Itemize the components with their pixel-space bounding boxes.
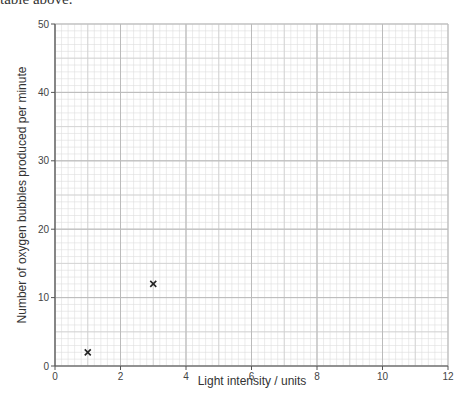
y-tick-label: 40 [38,87,50,98]
tick-labels: 02468101201020304050 [38,19,454,383]
x-tick-label: 10 [377,371,389,382]
x-tick-label: 8 [314,371,320,382]
y-tick-label: 50 [38,19,50,30]
x-tick-label: 4 [183,371,189,382]
x-tick-label: 12 [442,371,454,382]
y-tick-label: 0 [43,361,49,372]
y-tick-label: 10 [38,292,50,303]
x-tick-label: 2 [118,371,124,382]
y-axis-label: Number of oxygen bubbles produced per mi… [15,66,29,323]
y-tick-label: 30 [38,155,50,166]
x-tick-label: 0 [52,371,58,382]
y-tick-label: 20 [38,224,50,235]
x-axis-label: Light intensity / units [198,374,307,388]
scatter-chart: 02468101201020304050 Light intensity / u… [0,0,464,408]
